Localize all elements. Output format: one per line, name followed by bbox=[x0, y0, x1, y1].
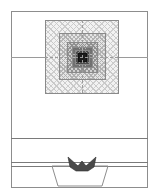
technical-diagram bbox=[0, 0, 157, 196]
nozzle-v-marker bbox=[0, 0, 157, 196]
